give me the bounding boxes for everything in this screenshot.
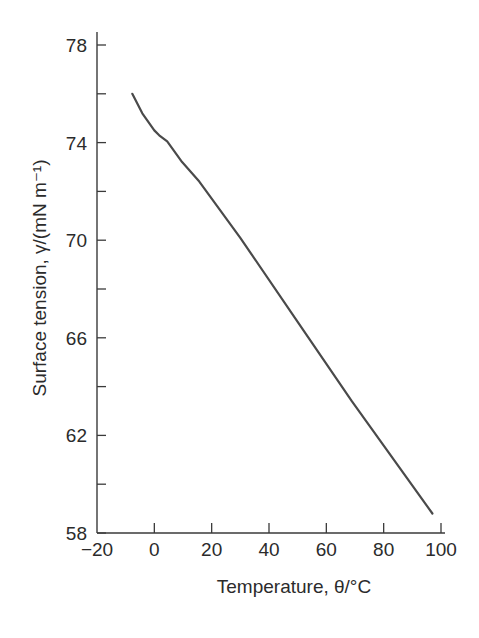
x-tick-label: 0 bbox=[149, 539, 160, 560]
data-series bbox=[132, 94, 432, 514]
x-axis-title: Temperature, θ/°C bbox=[217, 576, 371, 597]
series-line bbox=[132, 94, 432, 514]
y-tick-label: 62 bbox=[66, 425, 87, 446]
y-tick-label: 66 bbox=[66, 328, 87, 349]
y-tick-label: 74 bbox=[66, 133, 88, 154]
x-tick-label: −20 bbox=[81, 539, 113, 560]
x-tick-label: 60 bbox=[316, 539, 337, 560]
x-tick-label: 80 bbox=[373, 539, 394, 560]
x-tick-label: 20 bbox=[201, 539, 222, 560]
y-axis: 586266707478 bbox=[66, 32, 106, 544]
x-tick-label: 100 bbox=[425, 539, 457, 560]
y-tick-label: 70 bbox=[66, 230, 87, 251]
chart: 586266707478 −20020406080100 Temperature… bbox=[0, 0, 479, 638]
x-axis: −20020406080100 bbox=[81, 523, 457, 560]
x-tick-label: 40 bbox=[258, 539, 279, 560]
y-axis-title: Surface tension, γ/(mN m⁻¹) bbox=[29, 160, 50, 397]
y-tick-label: 78 bbox=[66, 35, 87, 56]
